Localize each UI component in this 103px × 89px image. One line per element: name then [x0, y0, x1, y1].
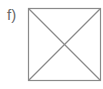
square-diagram — [0, 0, 103, 89]
